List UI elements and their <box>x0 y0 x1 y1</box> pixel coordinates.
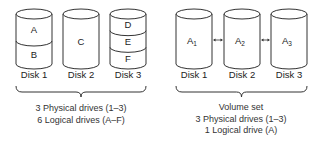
caption-line: 6 Logical drives (A–F) <box>37 115 125 125</box>
segment-subscript: 1 <box>193 40 197 47</box>
disk-label: Disk 1 <box>181 69 207 80</box>
caption-line: 1 Logical drive (A) <box>205 125 278 135</box>
span-connector-arrow <box>261 39 270 42</box>
disk-2: C <box>63 9 99 69</box>
volume-disk-3: A3 <box>271 9 307 69</box>
disk-1: AB <box>16 9 52 69</box>
caption-line: 3 Physical drives (1–3) <box>195 114 286 124</box>
disk-diagram: ABDisk 1CDisk 2DEFDisk 33 Physical drive… <box>0 0 321 141</box>
partition-label-b: B <box>31 49 37 60</box>
partition-label-c: C <box>78 36 85 47</box>
grouping-brace <box>16 86 146 97</box>
disk-label: Disk 2 <box>68 69 94 80</box>
disk-label: Disk 3 <box>115 69 141 80</box>
cylinder-top <box>110 9 146 19</box>
partition-label-a: A <box>31 24 38 35</box>
segment-subscript: 3 <box>288 40 292 47</box>
caption-line: Volume set <box>219 102 264 112</box>
caption-line: 3 Physical drives (1–3) <box>35 103 126 113</box>
volume-disk-2: A2 <box>224 9 260 69</box>
volume-disk-1: A1 <box>176 9 212 69</box>
span-connector-arrow <box>213 39 223 42</box>
cylinder-body <box>16 14 52 69</box>
disk-label: Disk 3 <box>276 69 302 80</box>
partition-label-f: F <box>125 53 131 64</box>
partition-label-e: E <box>125 36 131 47</box>
cylinder-top <box>63 9 99 19</box>
disk-3: DEF <box>110 9 146 69</box>
partition-label-d: D <box>125 19 132 30</box>
cylinder-top <box>176 9 212 19</box>
cylinder-top <box>16 9 52 19</box>
cylinder-top <box>271 9 307 19</box>
disk-label: Disk 1 <box>21 69 47 80</box>
volume-set-group: A1Disk 1A2Disk 2A3Disk 3Volume set3 Phys… <box>176 9 307 135</box>
grouping-brace <box>176 86 307 97</box>
multiple-partitions-group: ABDisk 1CDisk 2DEFDisk 33 Physical drive… <box>16 9 146 125</box>
disk-label: Disk 2 <box>229 69 255 80</box>
segment-subscript: 2 <box>241 40 245 47</box>
cylinder-top <box>224 9 260 19</box>
